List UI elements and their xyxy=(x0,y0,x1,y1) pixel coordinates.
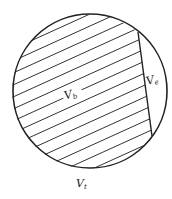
hatched-region-vb xyxy=(0,0,172,199)
label-ve: Ve xyxy=(145,72,160,89)
diagram-canvas: Vb Ve Vt xyxy=(0,0,172,199)
circle-outline xyxy=(13,14,167,168)
label-vt: Vt xyxy=(76,177,87,191)
